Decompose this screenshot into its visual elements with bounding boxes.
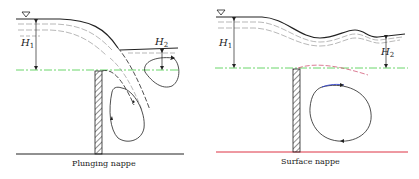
nappe-lower: [102, 70, 134, 105]
nappe-diagram: H1 H2 H1 H2: [0, 0, 419, 179]
h2-label: H2: [380, 46, 394, 59]
lower-vortex: [110, 87, 144, 141]
upstream-water-symbol: [217, 10, 225, 15]
caption-surface-nappe: Surface nappe: [281, 157, 340, 166]
h1-label: H1: [218, 37, 232, 50]
vortex: [310, 85, 371, 141]
nappe-lower: [298, 65, 368, 75]
tailwater-surface: [120, 48, 178, 50]
h1-label: H1: [20, 37, 34, 50]
water-surface: [216, 17, 405, 38]
caption-plunging-nappe: Plunging nappe: [72, 159, 136, 168]
weir-wall: [95, 71, 102, 154]
upstream-water-symbol: [22, 12, 30, 17]
h2-label: H2: [154, 36, 168, 49]
surface-nappe-panel: H1 H2: [215, 10, 408, 152]
weir-wall: [293, 69, 300, 152]
plunging-nappe-panel: H1 H2: [16, 12, 184, 154]
nappe-upper: [118, 48, 150, 110]
